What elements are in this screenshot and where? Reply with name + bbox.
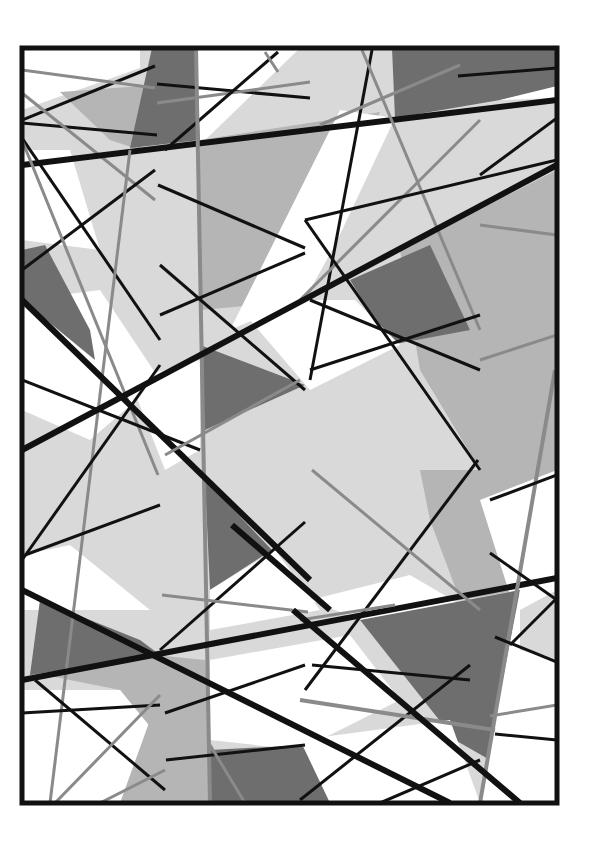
abstract-geometric-artwork	[0, 0, 597, 851]
polygon-layer	[22, 48, 557, 803]
